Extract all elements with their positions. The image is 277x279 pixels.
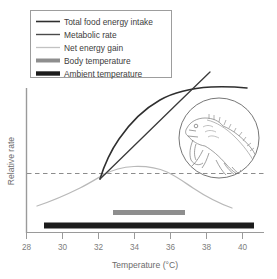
x-tick-label: 38 (202, 243, 212, 252)
legend-label: Total food energy intake (64, 17, 153, 27)
chart-svg: Total food energy intake Metabolic rate … (0, 0, 277, 279)
legend-label: Net energy gain (64, 43, 123, 53)
x-tick-label: 40 (238, 243, 248, 252)
x-axis-title: Temperature (°C) (112, 260, 178, 270)
chart-legend: Total food energy intake Metabolic rate … (31, 11, 172, 79)
x-tick-label: 28 (22, 243, 32, 252)
x-tick-label: 36 (166, 243, 176, 252)
legend-label: Metabolic rate (64, 30, 117, 40)
legend-label: Body temperature (64, 56, 131, 66)
chart-figure: Total food energy intake Metabolic rate … (0, 0, 277, 279)
y-axis-title: Relative rate (6, 137, 16, 185)
legend-label: Ambient temperature (64, 69, 143, 79)
x-tick-label: 30 (58, 243, 68, 252)
x-tick-label: 34 (130, 243, 140, 252)
x-tick-label: 32 (94, 243, 104, 252)
